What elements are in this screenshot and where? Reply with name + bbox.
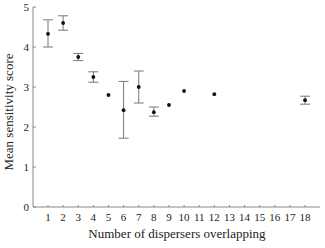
x-tick-label: 17 <box>284 211 296 223</box>
data-points <box>43 16 310 138</box>
x-tick-label: 5 <box>106 211 112 223</box>
data-point-marker <box>167 103 171 107</box>
data-point-marker <box>91 75 95 79</box>
data-point-marker <box>76 55 80 59</box>
scatter-chart: 012345 123456789101112131415161718 Numbe… <box>0 0 325 248</box>
y-axis-ticks: 012345 <box>24 1 37 213</box>
y-tick-label: 4 <box>24 41 30 53</box>
x-tick-label: 14 <box>239 211 251 223</box>
x-tick-label: 13 <box>224 211 236 223</box>
x-tick-label: 1 <box>45 211 51 223</box>
x-tick-label: 16 <box>269 211 281 223</box>
data-point-marker <box>212 92 216 96</box>
x-tick-label: 15 <box>254 211 266 223</box>
data-point-marker <box>61 21 65 25</box>
x-tick-label: 7 <box>136 211 142 223</box>
data-point-marker <box>137 85 141 89</box>
data-point-marker <box>46 32 50 36</box>
y-tick-label: 5 <box>24 1 30 13</box>
data-point-marker <box>107 93 111 97</box>
x-tick-label: 3 <box>75 211 81 223</box>
axes <box>33 7 320 207</box>
data-point-marker <box>303 98 307 102</box>
x-tick-label: 11 <box>194 211 205 223</box>
y-tick-label: 0 <box>24 201 30 213</box>
y-tick-label: 2 <box>24 121 30 133</box>
x-tick-label: 2 <box>60 211 66 223</box>
x-axis-label: Number of dispersers overlapping <box>88 226 266 241</box>
x-tick-label: 10 <box>179 211 191 223</box>
x-tick-label: 12 <box>209 211 220 223</box>
data-point-marker <box>152 110 156 114</box>
data-point-marker <box>122 108 126 112</box>
data-point-marker <box>182 89 186 93</box>
x-tick-label: 4 <box>91 211 97 223</box>
y-tick-label: 3 <box>24 81 30 93</box>
x-tick-label: 8 <box>151 211 157 223</box>
x-tick-label: 6 <box>121 211 127 223</box>
x-tick-label: 18 <box>300 211 312 223</box>
x-axis-ticks: 123456789101112131415161718 <box>45 205 311 223</box>
x-tick-label: 9 <box>166 211 172 223</box>
y-tick-label: 1 <box>24 161 30 173</box>
y-axis-label: Mean sensitivity score <box>1 53 16 170</box>
